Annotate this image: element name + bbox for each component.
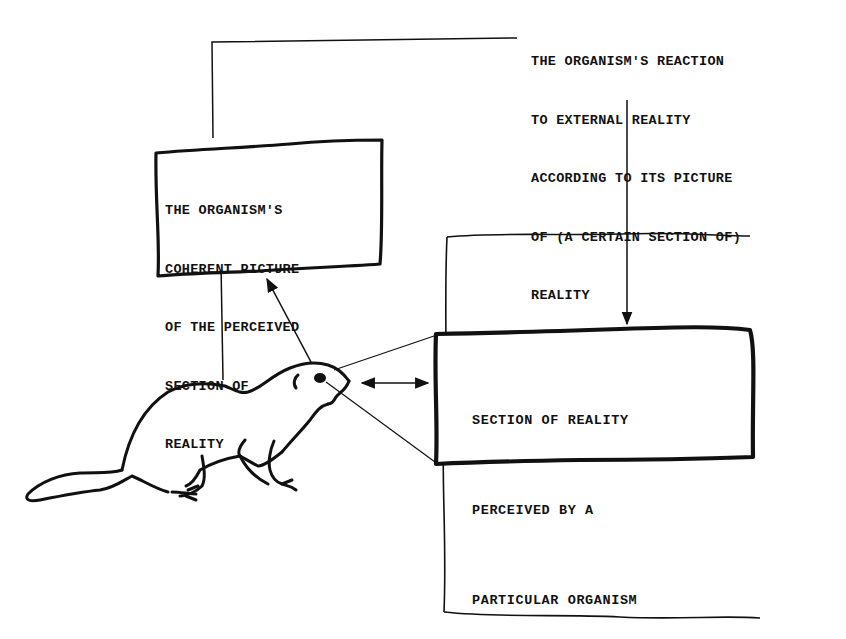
reaction-note-line: OF (A CERTAIN SECTION OF)	[531, 228, 741, 248]
marmot-eye	[314, 373, 326, 383]
reaction-note: THE ORGANISM'S REACTION TO EXTERNAL REAL…	[531, 13, 741, 345]
reaction-note-line: ACCORDING TO ITS PICTURE	[531, 169, 741, 189]
picture-box-line: COHERENT PICTURE	[165, 260, 299, 280]
picture-box-line: SECTION OF	[165, 377, 299, 397]
picture-box-line: OF THE PERCEIVED	[165, 318, 299, 338]
section-box-line: PERCEIVED BY A	[472, 496, 637, 526]
diagram-canvas: THE ORGANISM'S REACTION TO EXTERNAL REAL…	[0, 0, 846, 639]
reaction-note-line: REALITY	[531, 286, 741, 306]
picture-box: THE ORGANISM'S COHERENT PICTURE OF THE P…	[165, 162, 299, 494]
picture-box-line: THE ORGANISM'S	[165, 201, 299, 221]
section-box: SECTION OF REALITY PERCEIVED BY A PARTIC…	[472, 346, 637, 639]
section-box-line: PARTICULAR ORGANISM	[472, 586, 637, 616]
picture-box-line: REALITY	[165, 435, 299, 455]
section-box-line: SECTION OF REALITY	[472, 406, 637, 436]
reaction-note-line: THE ORGANISM'S REACTION	[531, 52, 741, 72]
perception-cone	[326, 335, 437, 462]
reaction-note-line: TO EXTERNAL REALITY	[531, 111, 741, 131]
